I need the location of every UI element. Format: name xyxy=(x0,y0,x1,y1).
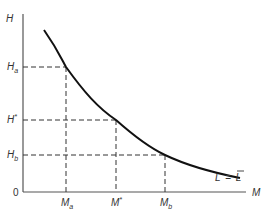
x-tick-mstar: M* xyxy=(111,196,122,208)
x-tick-ma: Ma xyxy=(61,197,73,210)
y-tick-hb: Hb xyxy=(7,149,18,162)
y-tick-ha: Ha xyxy=(7,61,18,74)
curve-label: L = L xyxy=(215,172,241,183)
x-tick-mb: Mb xyxy=(160,197,172,210)
guide-lines xyxy=(23,67,165,192)
origin-label: 0 xyxy=(13,187,19,198)
x-axis-label: M xyxy=(252,187,261,198)
y-axis-label: H xyxy=(6,13,14,24)
diagram-canvas: H M 0 Ha H* Hb Ma M* Mb L = L xyxy=(0,0,269,223)
indifference-curve xyxy=(44,30,240,178)
y-tick-hstar: H* xyxy=(7,113,17,125)
